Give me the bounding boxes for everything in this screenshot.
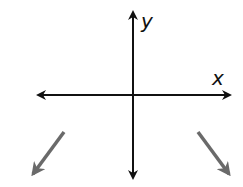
coordinate-plane: y x (0, 0, 243, 187)
right-end-behavior-arrow (198, 132, 229, 174)
x-axis-label: x (211, 66, 224, 90)
left-end-behavior-arrow (33, 132, 64, 174)
y-axis-label: y (140, 9, 154, 33)
